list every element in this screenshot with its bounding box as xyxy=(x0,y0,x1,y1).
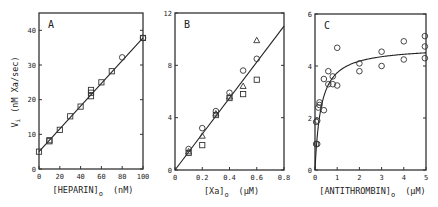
circle-marker xyxy=(379,49,385,55)
circle-marker xyxy=(422,33,428,39)
fit-line xyxy=(39,38,143,152)
x-axis-label-sub: o xyxy=(391,191,395,199)
figure: 020406080100010203040A[HEPARIN]o(nM) 00.… xyxy=(0,0,438,207)
x-axis-label: [Xa]o(µM) xyxy=(204,186,259,199)
panel-c-chart: 0123450246C[ANTITHROMBIN]o(µM) xyxy=(308,11,428,200)
y-axis-label-sub: i xyxy=(14,118,21,122)
x-tick-label: 100 xyxy=(137,173,150,181)
circle-marker xyxy=(321,107,327,113)
circle-marker xyxy=(240,68,246,74)
x-tick-label: 40 xyxy=(76,173,84,181)
panel-letter: A xyxy=(48,19,54,30)
x-axis-label-units: (nM) xyxy=(113,185,133,195)
plot-frame xyxy=(315,14,426,170)
y-tick-label: 20 xyxy=(28,96,36,104)
x-tick-label: 0 xyxy=(173,174,177,182)
plot-frame xyxy=(175,13,284,170)
triangle-marker xyxy=(199,133,205,138)
x-tick-label: 60 xyxy=(97,173,105,181)
x-axis-label-sub: o xyxy=(99,190,103,198)
y-tick-label: 12 xyxy=(164,10,172,18)
circle-marker xyxy=(422,44,428,50)
x-axis-label-units: (µM) xyxy=(405,186,425,196)
x-axis-label-main: [ANTITHROMBIN] xyxy=(319,186,391,196)
y-axis-label-units: (nM Xa/sec) xyxy=(10,56,20,112)
x-tick-label: 3 xyxy=(379,174,383,182)
x-tick-label: 2 xyxy=(357,174,361,182)
square-marker xyxy=(200,143,205,148)
x-tick-label: 4 xyxy=(402,174,406,182)
circle-marker xyxy=(326,68,332,74)
x-tick-label: 5 xyxy=(424,174,428,182)
panel-letter: B xyxy=(184,19,190,30)
x-tick-label: 0.8 xyxy=(278,174,291,182)
circle-marker xyxy=(422,55,428,61)
x-tick-label: 0 xyxy=(313,174,317,182)
triangle-marker xyxy=(254,37,260,42)
y-tick-label: 2 xyxy=(308,115,312,123)
y-tick-label: 0 xyxy=(168,167,172,175)
y-tick-label: 0 xyxy=(32,166,36,174)
x-axis-label: [ANTITHROMBIN]o(µM) xyxy=(319,186,425,199)
panel-letter: C xyxy=(324,20,330,31)
square-marker xyxy=(241,92,246,97)
y-tick-label: 0 xyxy=(308,167,312,175)
svg-text:Vi(nM Xa/sec): Vi(nM Xa/sec) xyxy=(10,56,21,127)
x-tick-label: 20 xyxy=(56,173,64,181)
y-tick-label: 6 xyxy=(308,11,312,19)
y-tick-label: 40 xyxy=(28,27,36,35)
x-tick-label: 0.6 xyxy=(250,174,263,182)
y-tick-label: 4 xyxy=(168,114,172,122)
y-tick-label: 30 xyxy=(28,62,36,70)
square-marker xyxy=(254,77,259,82)
fit-curve xyxy=(315,53,426,170)
x-axis-label-sub: o xyxy=(224,191,228,199)
circle-marker xyxy=(199,125,205,131)
panel-a-chart: 020406080100010203040A[HEPARIN]o(nM) xyxy=(28,13,150,198)
circle-marker xyxy=(334,45,340,51)
x-tick-label: 80 xyxy=(118,173,126,181)
y-tick-label: 8 xyxy=(168,62,172,70)
x-tick-label: 1 xyxy=(335,174,339,182)
circle-marker xyxy=(401,39,407,45)
x-axis-label: [HEPARIN]o(nM) xyxy=(53,185,134,198)
y-tick-label: 10 xyxy=(28,131,36,139)
x-tick-label: 0 xyxy=(37,173,41,181)
y-tick-label: 4 xyxy=(308,63,312,71)
circle-marker xyxy=(401,57,407,63)
x-axis-label-main: [Xa] xyxy=(204,186,224,196)
x-tick-label: 0.4 xyxy=(223,174,236,182)
panel-b-chart: 00.20.40.60.804812B[Xa]o(µM) xyxy=(164,10,291,200)
circle-marker xyxy=(357,68,363,74)
circle-marker xyxy=(119,55,125,61)
circle-marker xyxy=(379,63,385,69)
x-axis-label-units: (µM) xyxy=(239,186,259,196)
plot-frame xyxy=(39,13,143,169)
x-tick-label: 0.2 xyxy=(196,174,209,182)
x-axis-label-main: [HEPARIN] xyxy=(53,185,99,195)
circle-marker xyxy=(321,76,327,82)
triangle-marker xyxy=(240,83,246,88)
y-axis-label: Vi(nM Xa/sec) xyxy=(10,56,21,127)
